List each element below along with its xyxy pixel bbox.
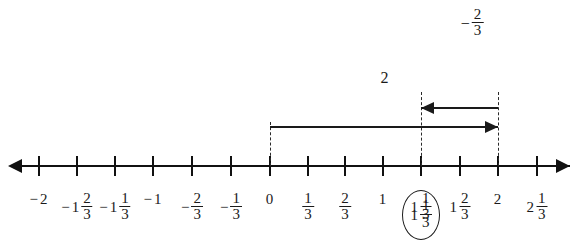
- fraction-denominator: 3: [302, 206, 314, 222]
- label-fraction: 13: [420, 198, 432, 230]
- fraction-numerator: 1: [230, 191, 242, 206]
- label-whole-number: 1: [72, 200, 80, 215]
- fraction-denominator: 3: [536, 206, 548, 222]
- fraction-denominator: 3: [459, 206, 471, 222]
- fraction-numerator: 2: [459, 191, 471, 206]
- label-sign: −: [220, 200, 228, 215]
- subtract-two-thirds-arrow-label: −23: [461, 8, 484, 40]
- fraction-numerator: 1: [420, 198, 432, 213]
- dashed-line-two: [498, 92, 499, 166]
- fraction-numerator: 2: [191, 191, 203, 206]
- label-whole-number: 1: [411, 208, 419, 223]
- label-sign: −: [144, 192, 152, 207]
- fraction-denominator: 3: [339, 206, 351, 222]
- tick-label: −113: [99, 192, 130, 224]
- tick-label: 113: [411, 199, 432, 231]
- fraction-numerator: 1: [302, 191, 314, 206]
- axis-right-arrowhead-icon: [556, 159, 570, 173]
- tick-mark: [459, 156, 461, 176]
- fraction-denominator: 3: [472, 22, 484, 38]
- label-whole-number: 2: [381, 70, 389, 86]
- tick-mark: [114, 156, 116, 176]
- number-line-diagram: −2−123−113−1−23−130132311131232213 2−23 …: [0, 0, 578, 250]
- tick-label: −23: [181, 192, 203, 224]
- tick-mark: [307, 156, 309, 176]
- tick-label: 123: [450, 192, 471, 224]
- label-whole-number: 1: [110, 200, 118, 215]
- tick-label: 213: [527, 192, 548, 224]
- label-sign: −: [461, 16, 470, 32]
- tick-label: 1: [379, 192, 388, 207]
- label-fraction: 23: [339, 191, 351, 223]
- label-whole-number: 2: [40, 192, 48, 207]
- number-line-axis: [12, 165, 570, 167]
- label-sign: −: [61, 200, 69, 215]
- fraction-denominator: 3: [230, 206, 242, 222]
- label-whole-number: 1: [450, 200, 458, 215]
- label-fraction: 13: [230, 191, 242, 223]
- tick-mark: [230, 156, 232, 176]
- label-fraction: 13: [536, 191, 548, 223]
- label-sign: −: [99, 200, 107, 215]
- add-two-arrow-head-icon: [485, 121, 498, 133]
- subtract-two-thirds-arrow-head-icon: [421, 102, 434, 114]
- label-fraction: 23: [81, 191, 93, 223]
- fraction-denominator: 3: [191, 206, 203, 222]
- tick-label: −2: [30, 192, 49, 207]
- label-fraction: 13: [119, 191, 131, 223]
- tick-mark: [344, 156, 346, 176]
- add-two-arrow-label: 2: [381, 70, 390, 86]
- fraction-numerator: 1: [536, 191, 548, 206]
- dashed-line-zero: [270, 122, 271, 166]
- tick-label: −1: [144, 192, 163, 207]
- label-whole-number: 1: [154, 192, 162, 207]
- tick-label: 0: [266, 192, 275, 207]
- tick-mark: [152, 156, 154, 176]
- tick-mark: [38, 156, 40, 176]
- tick-label: 13: [302, 192, 314, 224]
- fraction-numerator: 2: [472, 7, 484, 22]
- label-whole-number: 0: [266, 192, 274, 207]
- tick-label: −13: [220, 192, 242, 224]
- axis-left-arrowhead-icon: [8, 159, 22, 173]
- tick-mark: [536, 156, 538, 176]
- fraction-numerator: 2: [339, 191, 351, 206]
- fraction-denominator: 3: [81, 206, 93, 222]
- label-fraction: 23: [191, 191, 203, 223]
- add-two-arrow-line: [270, 126, 498, 128]
- tick-label: −123: [61, 192, 92, 224]
- tick-mark: [382, 156, 384, 176]
- label-whole-number: 2: [494, 192, 502, 207]
- label-sign: −: [30, 192, 38, 207]
- label-fraction: 23: [459, 191, 471, 223]
- label-sign: −: [181, 200, 189, 215]
- tick-label: 2: [494, 192, 503, 207]
- fraction-numerator: 2: [81, 191, 93, 206]
- fraction-denominator: 3: [119, 206, 131, 222]
- label-fraction: 23: [472, 7, 484, 39]
- fraction-denominator: 3: [420, 214, 432, 230]
- label-whole-number: 1: [379, 192, 387, 207]
- tick-mark: [76, 156, 78, 176]
- label-fraction: 13: [302, 191, 314, 223]
- label-whole-number: 2: [527, 200, 535, 215]
- tick-label: 23: [339, 192, 351, 224]
- fraction-numerator: 1: [119, 191, 131, 206]
- circled-answer: 113: [402, 190, 440, 240]
- tick-mark: [191, 156, 193, 176]
